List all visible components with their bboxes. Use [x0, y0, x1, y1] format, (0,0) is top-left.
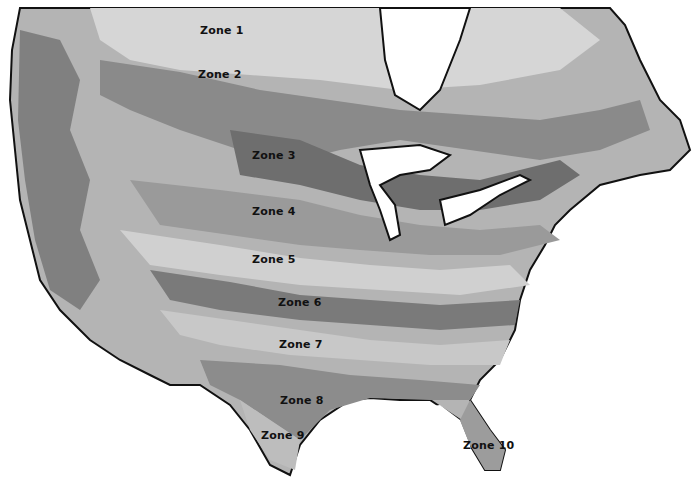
- zone-label-6: Zone 6: [278, 296, 322, 309]
- zone-label-2: Zone 2: [198, 68, 242, 81]
- zone-label-8: Zone 8: [280, 394, 324, 407]
- zone-label-1: Zone 1: [200, 24, 244, 37]
- zone-label-9: Zone 9: [261, 429, 305, 442]
- zone-label-5: Zone 5: [252, 253, 296, 266]
- zone-label-7: Zone 7: [279, 338, 323, 351]
- zone-label-10: Zone 10: [463, 439, 514, 452]
- zone-label-4: Zone 4: [252, 205, 296, 218]
- hardiness-zone-map: [0, 0, 699, 490]
- zone-label-3: Zone 3: [252, 149, 296, 162]
